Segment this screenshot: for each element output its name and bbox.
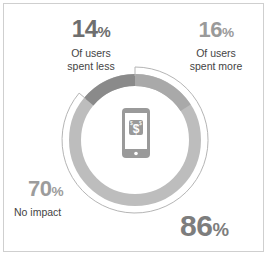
ring-segment-spent-more <box>135 80 186 108</box>
value-number: 16 <box>198 17 221 42</box>
stat-spent-less-value: 14% <box>60 17 122 41</box>
stat-no-impact-value: 70% <box>28 178 66 200</box>
label-line-2: spent more <box>184 60 248 73</box>
svg-text:$: $ <box>139 120 142 126</box>
stat-spent-less: 14% Of users spent less <box>60 17 122 73</box>
value-number: 14 <box>72 15 98 42</box>
stat-total-value: 86% <box>180 211 250 241</box>
label-line-1: Of users <box>60 47 122 60</box>
ring-segment-spent-less <box>89 80 135 102</box>
label-line-2: spent less <box>60 60 122 73</box>
percent-sign: % <box>222 25 234 40</box>
stat-spent-more-value: 16% <box>184 19 248 41</box>
percent-sign: % <box>97 24 110 40</box>
svg-text:$: $ <box>130 120 133 126</box>
outer-arc-end-tick <box>79 93 85 98</box>
value-number: 70 <box>28 176 51 201</box>
stat-spent-more-label: Of users spent more <box>184 47 248 73</box>
smartphone-dollar-icon: $ $ $ <box>122 108 150 158</box>
stat-spent-more: 16% Of users spent more <box>184 19 248 73</box>
stat-no-impact-label: No impact <box>14 206 66 219</box>
value-number: 86 <box>180 209 212 242</box>
stat-spent-less-label: Of users spent less <box>60 47 122 73</box>
stat-no-impact: 70% No impact <box>14 178 66 219</box>
label-line-1: Of users <box>184 47 248 60</box>
percent-sign: % <box>212 219 228 240</box>
percent-sign: % <box>51 184 63 199</box>
stat-total-86: 86% <box>180 211 250 241</box>
